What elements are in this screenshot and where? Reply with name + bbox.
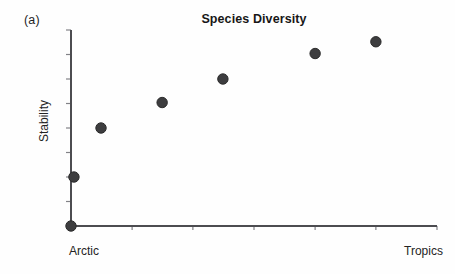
data-point: [371, 37, 381, 47]
data-point: [310, 48, 320, 58]
data-point: [157, 97, 167, 107]
data-point: [69, 172, 79, 182]
data-point: [66, 221, 76, 231]
x-axis-label-arctic: Arctic: [69, 244, 99, 258]
x-axis-label-tropics: Tropics: [404, 244, 443, 258]
data-point: [96, 123, 106, 133]
figure-panel: (a) Species Diversity Stability Arctic T…: [0, 0, 455, 274]
plot-svg: [0, 0, 455, 274]
data-point: [218, 74, 228, 84]
